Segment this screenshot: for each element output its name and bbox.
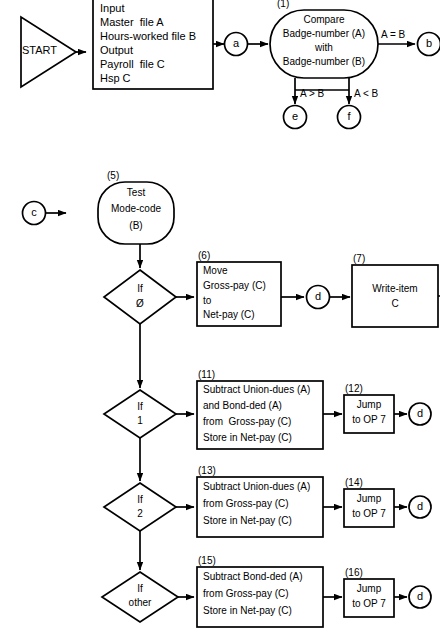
process-box-13-line-3: Store in Net-pay (C) <box>203 515 292 527</box>
io-line-1: Input <box>100 2 124 15</box>
io-line-5: Payroll file C <box>100 58 165 71</box>
connector-d-2-label: d <box>410 407 430 420</box>
process-box-6-line-3: to <box>203 295 211 307</box>
write-item-line-1: Write-item <box>352 283 438 295</box>
process-box-6-line-1: Move <box>203 265 227 277</box>
connector-e-label: e <box>285 110 305 123</box>
io-line-2: Master file A <box>100 16 164 29</box>
connector-d-3-label: d <box>410 500 430 513</box>
decision-if-0-line-2: Ø <box>120 298 160 310</box>
process-box-15-line-2: from Gross-pay (C) <box>203 588 289 600</box>
io-line-6: Hsp C <box>100 72 131 85</box>
test-line-3: (B) <box>98 220 174 232</box>
start-label: START <box>22 44 70 57</box>
process-box-15-line-3: Store in Net-pay (C) <box>203 605 292 617</box>
connector-d-1-label: d <box>308 290 328 303</box>
process-box-11-line-1: Subtract Union-dues (A) <box>203 384 310 396</box>
branch-label-greater: A > B <box>300 88 324 100</box>
process-box-11-step: (11) <box>198 369 215 381</box>
branch-label-equal: A = B <box>381 29 405 41</box>
compare-line-4: Badge-number (B) <box>270 56 378 68</box>
connector-b-label: b <box>419 37 439 50</box>
io-line-4: Output <box>100 44 133 57</box>
jump-box-14-line-2: to OP 7 <box>344 508 394 520</box>
test-step-label: (5) <box>107 170 119 182</box>
flowchart-canvas: START Input Master file A Hours-worked f… <box>0 0 440 641</box>
decision-if-1 <box>104 390 176 438</box>
jump-box-14-line-1: Jump <box>344 493 394 505</box>
process-box-15-line-1: Subtract Bond-ded (A) <box>203 571 303 583</box>
decision-if-2-line-2: 2 <box>120 508 160 520</box>
decision-if-2 <box>104 483 176 531</box>
branch-label-less: A < B <box>354 88 378 100</box>
jump-box-14-step: (14) <box>345 477 363 489</box>
decision-if-2-line-1: If <box>120 494 160 506</box>
connector-a-label: a <box>226 37 246 50</box>
connector-f-label: f <box>339 110 359 123</box>
compare-step-label: (1) <box>277 0 289 10</box>
process-box-6-line-4: Net-pay (C) <box>203 309 255 321</box>
process-box-6-line-2: Gross-pay (C) <box>203 280 266 292</box>
jump-box-12-line-2: to OP 7 <box>344 414 394 426</box>
connector-d-4-label: d <box>410 590 430 603</box>
jump-box-16-step: (16) <box>345 567 363 579</box>
decision-if-other-line-1: If <box>120 583 160 595</box>
decision-if-other-line-2: other <box>116 597 164 609</box>
connector-c-label: c <box>24 206 44 219</box>
process-box-13-line-1: Subtract Union-dues (A) <box>203 481 310 493</box>
compare-line-2: Badge-number (A) <box>270 28 378 40</box>
compare-line-1: Compare <box>270 14 378 26</box>
write-item-box <box>352 265 438 327</box>
write-item-step: (7) <box>353 253 365 265</box>
jump-box-12-line-1: Jump <box>344 399 394 411</box>
decision-if-0-line-1: If <box>120 283 160 295</box>
jump-box-16-line-2: to OP 7 <box>344 598 394 610</box>
process-box-13-line-2: from Gross-pay (C) <box>203 498 289 510</box>
process-box-11-line-4: Store in Net-pay (C) <box>203 432 292 444</box>
process-box-11-line-2: and Bond-ded (A) <box>203 400 282 412</box>
process-box-6-step: (6) <box>198 250 210 262</box>
io-line-3: Hours-worked file B <box>100 30 196 43</box>
compare-line-3: with <box>270 42 378 54</box>
decision-if-1-line-1: If <box>120 401 160 413</box>
decision-if-0 <box>104 270 176 324</box>
process-box-13-step: (13) <box>198 465 216 477</box>
test-line-1: Test <box>98 187 174 199</box>
test-line-2: Mode-code <box>94 203 178 215</box>
write-item-line-2: C <box>352 298 438 310</box>
jump-box-16-line-1: Jump <box>344 583 394 595</box>
process-box-15-step: (15) <box>198 555 216 567</box>
jump-box-12-step: (12) <box>345 383 363 395</box>
decision-if-1-line-2: 1 <box>120 415 160 427</box>
process-box-11-line-3: from Gross-pay (C) <box>203 416 291 428</box>
